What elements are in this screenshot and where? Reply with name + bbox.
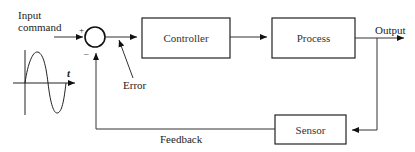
feedback-label: Feedback	[160, 133, 202, 145]
sensor-label: Sensor	[275, 115, 346, 144]
input-label-line1: Input	[18, 9, 41, 21]
feedback-path	[96, 53, 275, 129]
controller-label: Controller	[142, 18, 230, 58]
time-axis-label: t	[67, 67, 70, 79]
process-label: Process	[272, 18, 355, 58]
error-pointer	[119, 40, 133, 78]
output-label: Output	[375, 24, 406, 36]
input-label-line2: command	[18, 21, 61, 33]
output-to-sensor-path	[352, 38, 377, 130]
summing-junction	[85, 27, 105, 47]
plus-sign: +	[79, 24, 84, 36]
minus-sign: –	[84, 47, 89, 59]
error-label: Error	[123, 79, 146, 91]
